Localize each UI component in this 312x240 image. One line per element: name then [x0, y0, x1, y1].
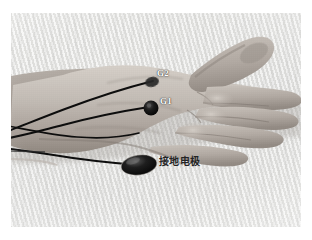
hand-illustration — [11, 13, 301, 227]
electrode-g1 — [144, 101, 159, 116]
annotation-label-g1: G1 — [160, 97, 172, 106]
page-canvas: G2 G1 接地电极 — [0, 0, 312, 240]
annotation-label-g2: G2 — [157, 69, 169, 78]
electrode-g1-specular — [147, 103, 151, 107]
annotation-label-ground-electrode: 接地电极 — [159, 157, 200, 167]
figure-photograph: G2 G1 接地电极 — [11, 13, 301, 227]
